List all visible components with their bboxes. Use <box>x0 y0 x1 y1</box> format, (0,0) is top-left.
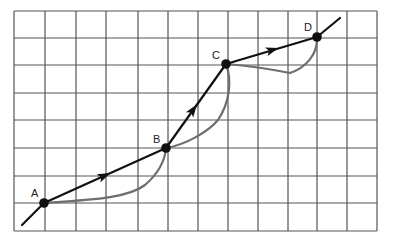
curve-segment-CD <box>226 37 317 73</box>
arrow-icon <box>265 44 280 56</box>
point-d <box>312 32 322 42</box>
point-b <box>161 143 171 153</box>
point-a <box>39 198 49 208</box>
grid <box>14 11 377 231</box>
straight-path <box>22 18 340 225</box>
point-c <box>221 59 231 69</box>
path-diagram: ABCD <box>0 0 393 247</box>
point-label-d: D <box>304 21 312 33</box>
point-label-c: C <box>212 49 220 61</box>
point-label-a: A <box>31 187 39 199</box>
point-label-b: B <box>153 133 160 145</box>
